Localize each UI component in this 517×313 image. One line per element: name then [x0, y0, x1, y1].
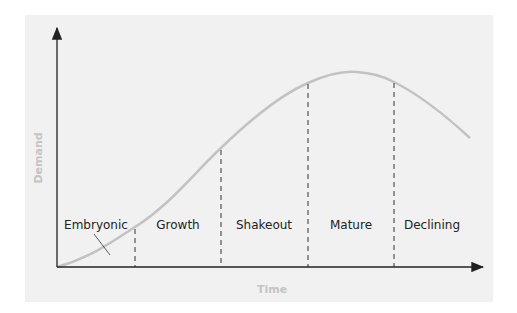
- stage-label-growth: Growth: [156, 218, 199, 232]
- stage-label-shakeout: Shakeout: [236, 218, 292, 232]
- stage-label-mature: Mature: [330, 218, 372, 232]
- y-axis-label: Demand: [32, 132, 45, 183]
- x-axis-label: Time: [257, 283, 287, 296]
- life-cycle-diagram: Embryonic Growth Shakeout Mature Declini…: [0, 0, 517, 313]
- stage-label-declining: Declining: [404, 218, 460, 232]
- demand-curve: [57, 72, 470, 267]
- stage-label-embryonic: Embryonic: [64, 218, 128, 232]
